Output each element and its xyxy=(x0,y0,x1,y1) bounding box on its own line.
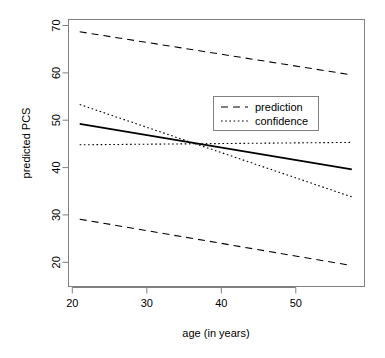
y-tick-label-40: 40 xyxy=(50,161,62,173)
x-tick-label-50: 50 xyxy=(290,297,302,309)
y-axis-title: predicted PCS xyxy=(20,108,32,179)
legend-label-confidence: confidence xyxy=(255,115,308,127)
y-tick-label-70: 70 xyxy=(50,19,62,31)
legend-label-prediction: prediction xyxy=(255,101,303,113)
y-tick-label-30: 30 xyxy=(50,209,62,221)
y-tick-label-20: 20 xyxy=(50,256,62,268)
y-tick-label-60: 60 xyxy=(50,67,62,79)
x-tick-label-40: 40 xyxy=(215,297,227,309)
chart-container: 70 60 50 40 30 20 predicted PCS 20 30 40… xyxy=(0,0,385,358)
x-tick-label-30: 30 xyxy=(141,297,153,309)
y-tick-label-50: 50 xyxy=(50,114,62,126)
chart-background xyxy=(0,0,385,358)
x-tick-label-20: 20 xyxy=(66,297,78,309)
chart-legend: prediction confidence xyxy=(214,97,319,131)
x-axis-title: age (in years) xyxy=(182,327,249,339)
chart-svg: 70 60 50 40 30 20 predicted PCS 20 30 40… xyxy=(0,0,385,358)
